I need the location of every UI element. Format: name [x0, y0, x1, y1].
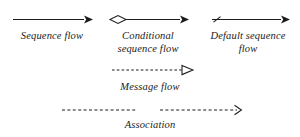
filled-arrowhead-icon: [281, 16, 290, 24]
message-flow-connector: [112, 65, 193, 74]
default-sequence-flow-connector: [212, 16, 290, 24]
filled-arrowhead-icon: [84, 16, 93, 24]
open-line-arrowhead-icon: [235, 105, 242, 114]
conditional-sequence-flow-connector: [110, 16, 189, 24]
filled-arrowhead-icon: [180, 16, 189, 24]
legend-canvas: [0, 0, 300, 137]
hollow-diamond-icon: [110, 16, 126, 24]
hollow-arrowhead-icon: [182, 65, 193, 74]
association-connector: [62, 105, 242, 114]
sequence-flow-connector: [13, 16, 93, 24]
